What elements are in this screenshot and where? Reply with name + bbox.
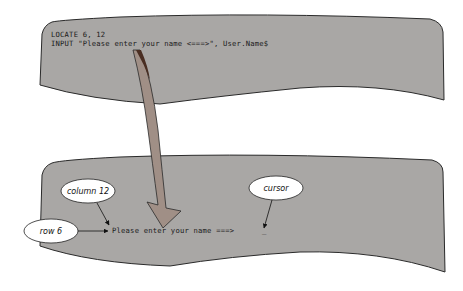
code-panel-shape — [40, 15, 444, 104]
screen-panel-shape — [40, 155, 445, 272]
code-line-input: INPUT "Please enter your name <===>", Us… — [51, 39, 268, 48]
callout-column-label: column 12 — [67, 187, 109, 196]
screen-panel: Please enter your name ===> _ — [40, 155, 445, 272]
code-panel: LOCATE 6, 12 INPUT "Please enter your na… — [40, 15, 444, 104]
code-line-locate: LOCATE 6, 12 — [51, 30, 105, 39]
callout-cursor-label: cursor — [263, 184, 289, 193]
diagram-canvas: LOCATE 6, 12 INPUT "Please enter your na… — [0, 0, 463, 291]
callout-row-label: row 6 — [40, 227, 62, 236]
screen-output-text: Please enter your name ===> — [112, 226, 235, 235]
